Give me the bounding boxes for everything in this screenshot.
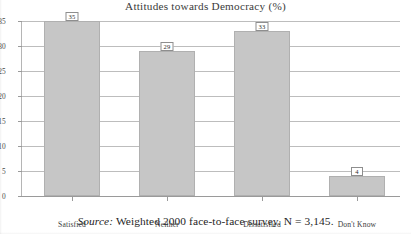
scan-edge-left [0,0,2,234]
bar-value-neither: 29 [161,42,174,51]
bar-dont-know[interactable] [329,176,385,196]
bar-satisfied[interactable] [44,21,100,196]
bar-chart-figure: Attitudes towards Democracy (%) 35 30 25… [0,0,411,234]
bar-neither[interactable] [139,51,195,196]
bar-value-dont-know: 4 [351,167,363,176]
y-tick-mark-30 [18,46,22,47]
plot-area: 35 30 25 20 15 10 5 0 35 29 33 4 Satisfi… [21,21,400,196]
y-tick-mark-35 [18,21,22,22]
x-tick-mark-neither [167,196,168,201]
y-tick-mark-15 [18,121,22,122]
scan-edge-bottom [0,232,411,234]
source-note: Source: Weighted 2000 face-to-face surve… [0,215,411,227]
chart-title: Attitudes towards Democracy (%) [0,0,411,12]
y-tick-mark-0 [18,196,22,197]
x-axis-line [20,196,400,197]
x-tick-mark-dont-know [357,196,358,201]
bar-value-satisfied: 35 [66,12,79,21]
source-note-text: Weighted 2000 face-to-face survey. N = 3… [116,215,334,227]
y-tick-mark-10 [18,146,22,147]
y-tick-mark-20 [18,96,22,97]
y-tick-mark-25 [18,71,22,72]
x-tick-mark-satisfied [72,196,73,201]
y-tick-mark-5 [18,171,22,172]
source-note-label: Source: [77,215,113,227]
bar-dissatisfied[interactable] [234,31,290,196]
bar-value-dissatisfied: 33 [256,22,269,31]
x-tick-mark-dissatisfied [262,196,263,201]
